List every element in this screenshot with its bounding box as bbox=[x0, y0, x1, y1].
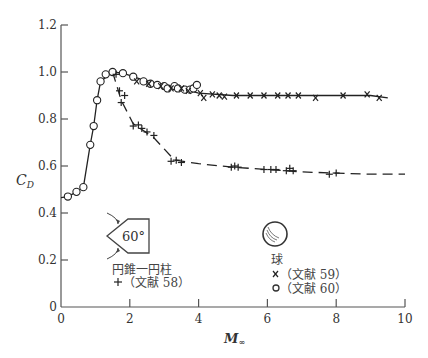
plot-area: 00.20.40.60.81.01.20246810 CD M∞ 60° 円錐一… bbox=[0, 0, 428, 358]
plus-marker bbox=[273, 166, 280, 173]
x-marker bbox=[365, 91, 370, 97]
circle-marker bbox=[73, 188, 80, 195]
circle-marker bbox=[90, 122, 97, 129]
circle-marker bbox=[94, 97, 101, 104]
fit-curves bbox=[61, 72, 405, 198]
cone-legend-ref: （文献 58） bbox=[123, 275, 190, 290]
x-axis-label: M∞ bbox=[223, 331, 245, 347]
plus-marker bbox=[144, 128, 151, 135]
circle-marker bbox=[102, 71, 109, 78]
plus-marker bbox=[333, 170, 340, 177]
x-marker bbox=[201, 95, 206, 101]
sphere-legend-ref-59: （文献 59） bbox=[280, 267, 347, 282]
plus-marker bbox=[150, 132, 157, 139]
x-marker bbox=[217, 93, 222, 99]
y-tick-label: 1.2 bbox=[38, 18, 57, 32]
data-markers bbox=[64, 68, 381, 200]
circle-marker bbox=[119, 70, 126, 77]
x-marker bbox=[377, 95, 382, 101]
plus-marker bbox=[260, 166, 267, 173]
plus-marker bbox=[168, 158, 175, 165]
drag-coefficient-chart: 00.20.40.60.81.01.20246810 CD M∞ 60° 円錐一… bbox=[0, 0, 428, 358]
circle-marker bbox=[80, 184, 87, 191]
y-tick-label: 0 bbox=[49, 300, 57, 314]
sphere-icon bbox=[263, 222, 287, 246]
plus-marker bbox=[235, 164, 242, 171]
cone-angle-label: 60° bbox=[122, 229, 145, 244]
x-legend-icon bbox=[273, 271, 278, 277]
circle-marker bbox=[130, 73, 137, 80]
y-tick-label: 0.8 bbox=[38, 112, 57, 126]
plus-marker bbox=[231, 163, 238, 170]
plus-marker bbox=[130, 123, 137, 130]
circle-marker bbox=[174, 85, 181, 92]
y-tick-label: 0.4 bbox=[38, 206, 57, 220]
plus-marker bbox=[228, 164, 235, 171]
x-marker bbox=[134, 78, 139, 84]
plus-marker bbox=[121, 92, 128, 99]
sphere-fit-line bbox=[61, 72, 388, 198]
x-tick-label: 8 bbox=[332, 312, 340, 326]
circle-marker bbox=[97, 78, 104, 85]
sphere-legend-title: 球 bbox=[271, 253, 283, 267]
plus-legend-icon bbox=[114, 278, 122, 286]
y-tick-label: 0.2 bbox=[38, 253, 57, 267]
x-tick-label: 0 bbox=[57, 312, 65, 326]
x-tick-label: 10 bbox=[397, 312, 412, 326]
y-tick-label: 0.6 bbox=[38, 159, 57, 173]
x-tick-label: 6 bbox=[264, 312, 272, 326]
y-tick-label: 1.0 bbox=[38, 65, 57, 79]
plus-marker bbox=[326, 171, 333, 178]
x-tick-label: 2 bbox=[126, 312, 134, 326]
y-axis-label: CD bbox=[16, 172, 34, 190]
circle-marker bbox=[164, 85, 171, 92]
circle-marker bbox=[193, 81, 200, 88]
plus-marker bbox=[135, 121, 142, 128]
circle-marker bbox=[64, 193, 71, 200]
tick-labels: 00.20.40.60.81.01.20246810 bbox=[38, 18, 413, 326]
x-tick-label: 4 bbox=[195, 312, 203, 326]
cone-legend-title: 円錐一円柱 bbox=[112, 262, 172, 277]
circle-marker bbox=[87, 141, 94, 148]
circle-legend-icon bbox=[273, 285, 279, 291]
sphere-legend-ref-60: （文献 60） bbox=[280, 281, 347, 296]
